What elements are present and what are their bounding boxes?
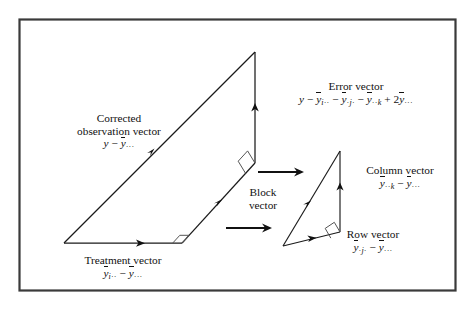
treatment-label-title: Treatment vector: [48, 254, 198, 267]
block-label-line1: Block: [226, 186, 300, 199]
column-label-title: Column vector: [340, 164, 460, 177]
figure-page: Corrected observation vector y − y··· Er…: [0, 0, 473, 312]
row-label-formula: y·j· − y···: [318, 241, 428, 255]
row-vector-label: Row vector y·j· − y···: [318, 228, 428, 255]
block-vector-arrowhead: [214, 199, 223, 206]
error-vector-label: Error vector y − yi·· − y·j· − y··k + 2y…: [258, 80, 454, 107]
block-vector-label: Block vector: [226, 186, 300, 211]
row-label-title: Row vector: [318, 228, 428, 241]
right-angle-marker-treatment-block: [173, 235, 190, 243]
block-label-line2: vector: [226, 199, 300, 212]
column-vector-label: Column vector y··k − y···: [340, 164, 460, 191]
right-angle-marker-block-error: [238, 151, 255, 174]
corrected-label-formula: y − y···: [44, 137, 194, 151]
row-vector-arrowhead: [307, 236, 316, 243]
corrected-label-line2: observation vector: [44, 125, 194, 138]
treatment-vector-label: Treatment vector yi·· − y···: [48, 254, 198, 281]
column-label-formula: y··k − y···: [340, 177, 460, 191]
error-label-title: Error vector: [258, 80, 454, 93]
error-label-formula: y − yi·· − y·j· − y··k + 2y···: [258, 93, 454, 107]
corrected-observation-vector-label: Corrected observation vector y − y···: [44, 112, 194, 152]
corrected-label-line1: Corrected: [44, 112, 194, 125]
treatment-label-formula: yi·· − y···: [48, 267, 198, 281]
